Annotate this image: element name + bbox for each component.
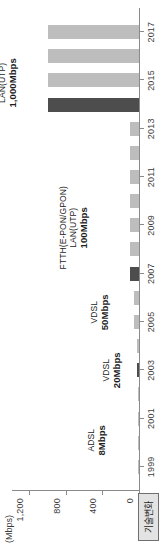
x-axis-tick-mark (140, 273, 144, 274)
bar-annotation: ADSL8Mbps (86, 425, 107, 456)
legend-label: 기술변화 (144, 501, 154, 533)
bar (134, 315, 139, 329)
annotation-value: 50Mbps (99, 294, 110, 330)
bar-annotation: FTTH(E-PON/GPON)LAN(UTP)1,000Mbps (0, 41, 18, 124)
bar (138, 460, 140, 474)
x-axis-tick-label: 1999 (146, 456, 156, 477)
x-axis-tick-mark (140, 176, 144, 177)
bar (138, 387, 140, 401)
x-axis-tick-label: 2015 (146, 70, 156, 91)
bar (130, 146, 139, 160)
x-axis-tick-mark (140, 31, 144, 32)
annotation-name: VDSL (101, 352, 111, 388)
plot-area: 04008001,200 199920012003200520072009201… (12, 8, 140, 491)
bar-chart-figure: (Mbps) 04008001,200 19992001200320052007… (0, 0, 165, 549)
bar-annotation: VDSL20Mbps (101, 352, 122, 388)
bar (48, 49, 139, 63)
x-axis-tick-label: 2005 (146, 312, 156, 333)
annotation-value: 100Mbps (78, 186, 89, 269)
annotation-name: VDSL (89, 294, 99, 330)
x-axis-tick-mark (140, 79, 144, 80)
y-axis-unit-label: (Mbps) (4, 515, 14, 543)
legend-box: 기술변화 (138, 493, 159, 541)
bar (134, 291, 139, 305)
x-axis-tick-mark (140, 418, 144, 419)
annotation-value: 20Mbps (111, 352, 122, 388)
annotation-name: FTTH(E-PON/GPON) (58, 186, 68, 269)
x-axis-tick-label: 2013 (146, 118, 156, 139)
bar (130, 243, 139, 257)
x-axis-tick-label: 2009 (146, 215, 156, 236)
bar (48, 98, 139, 112)
annotation-name: ADSL (86, 425, 96, 456)
x-axis-tick-label: 2003 (146, 360, 156, 381)
y-axis-tick-mark (29, 491, 30, 495)
annotation-value: 1,000Mbps (7, 41, 18, 124)
y-axis-tick-mark (102, 491, 103, 495)
bar (130, 170, 139, 184)
x-axis-tick-mark (140, 466, 144, 467)
y-axis-tick-label: 400 (88, 498, 98, 514)
annotation-name: LAN(UTP) (0, 41, 7, 124)
x-axis-tick-mark (140, 224, 144, 225)
bar (130, 122, 139, 136)
x-axis-tick-mark (140, 369, 144, 370)
bar (48, 73, 139, 87)
bar-annotation: VDSL50Mbps (89, 294, 110, 330)
y-axis-tick-label: 0 (125, 498, 135, 503)
bar (130, 218, 139, 232)
x-axis-tick-label: 2017 (146, 22, 156, 43)
annotation-name: LAN(UTP) (68, 186, 78, 269)
x-axis-tick-mark (140, 128, 144, 129)
rotated-figure-wrapper: (Mbps) 04008001,200 19992001200320052007… (0, 0, 165, 549)
bar (48, 25, 139, 39)
bar (138, 436, 140, 450)
bar (130, 194, 139, 208)
bar (137, 339, 139, 353)
bar (137, 363, 139, 377)
x-axis-tick-label: 2001 (146, 408, 156, 429)
bar (130, 267, 139, 281)
x-axis-tick-label: 2011 (146, 167, 156, 187)
y-axis-tick-label: 1,200 (15, 498, 25, 522)
x-axis-tick-label: 2007 (146, 263, 156, 284)
y-axis-line (12, 490, 140, 491)
y-axis-tick-mark (66, 491, 67, 495)
y-axis-tick-label: 800 (52, 498, 62, 514)
bar (138, 412, 140, 426)
annotation-value: 8Mbps (96, 425, 107, 456)
bar-annotation: FTTH(E-PON/GPON)LAN(UTP)100Mbps (58, 186, 89, 269)
x-axis-tick-mark (140, 321, 144, 322)
